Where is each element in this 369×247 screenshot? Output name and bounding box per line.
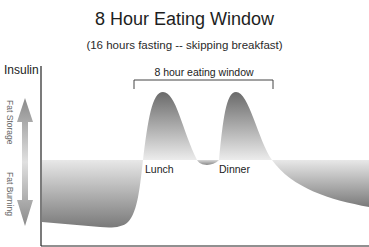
dinner-peak-area bbox=[219, 92, 272, 160]
post-dinner-decay-area bbox=[272, 160, 369, 207]
dinner-label: Dinner bbox=[219, 163, 250, 175]
lunch-peak-area bbox=[143, 92, 197, 160]
insulin-chart bbox=[0, 0, 369, 247]
fasting-area bbox=[42, 160, 143, 227]
fat-storage-label: Fat Storage bbox=[5, 100, 15, 144]
lunch-label: Lunch bbox=[145, 163, 174, 175]
eating-window-bracket bbox=[134, 80, 273, 89]
between-meals-dip bbox=[197, 160, 219, 165]
fat-storage-burning-arrow-icon bbox=[17, 98, 33, 226]
fat-burning-label: Fat Burning bbox=[5, 172, 15, 216]
